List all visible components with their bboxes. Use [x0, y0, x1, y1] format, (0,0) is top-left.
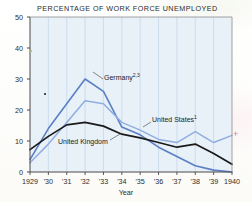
- y-tick-label: 50: [5, 13, 23, 22]
- series-label-united-states-footnote: 1: [194, 114, 197, 120]
- y-tick-label: 10: [5, 137, 23, 146]
- y-tick-label: 40: [5, 44, 23, 53]
- plot-background: [30, 17, 232, 172]
- series-label-germany-footnote: 2,3: [133, 72, 140, 78]
- series-label-united-kingdom-text: United Kingdom: [58, 138, 108, 145]
- y-tick-label: 30: [5, 75, 23, 84]
- x-axis-title: Year: [0, 188, 252, 197]
- series-label-germany: Germany2,3: [104, 74, 140, 81]
- series-label-united-kingdom: United Kingdom: [58, 138, 108, 145]
- plot-canvas: [0, 0, 252, 202]
- y-tick-label: 20: [5, 106, 23, 115]
- series-label-united-states-text: United States: [152, 116, 194, 123]
- x-tick-label: 1940: [219, 177, 245, 186]
- unemployment-line-chart-figure: PERCENTAGE OF WORK FORCE UNEMPLOYED 0102…: [0, 0, 252, 202]
- y-tick-label: 0: [5, 168, 23, 177]
- series-label-united-states: United States1: [152, 116, 197, 123]
- series-label-germany-text: Germany: [104, 74, 133, 81]
